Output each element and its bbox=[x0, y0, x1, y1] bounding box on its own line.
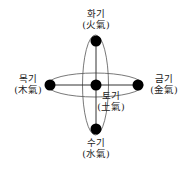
wood-hanja: (木氣) bbox=[12, 84, 44, 95]
metal-label: 금기 (金氣) bbox=[148, 73, 180, 95]
earth-korean: 토기 bbox=[95, 90, 127, 101]
fire-node-dot bbox=[91, 36, 102, 47]
fire-label: 화기 (火氣) bbox=[80, 8, 112, 30]
earth-hanja: (土氣) bbox=[95, 101, 127, 112]
water-node-dot bbox=[91, 124, 102, 135]
earth-label: 토기 (土氣) bbox=[95, 90, 127, 112]
fire-hanja: (火氣) bbox=[80, 19, 112, 30]
wood-label: 목기 (木氣) bbox=[12, 73, 44, 95]
earth-node-dot bbox=[91, 80, 102, 91]
water-hanja: (水氣) bbox=[80, 148, 112, 159]
water-korean: 수기 bbox=[80, 137, 112, 148]
metal-node-dot bbox=[133, 80, 144, 91]
wood-korean: 목기 bbox=[12, 73, 44, 84]
metal-korean: 금기 bbox=[148, 73, 180, 84]
wood-node-dot bbox=[45, 80, 56, 91]
metal-hanja: (金氣) bbox=[148, 84, 180, 95]
water-label: 수기 (水氣) bbox=[80, 137, 112, 159]
fire-korean: 화기 bbox=[80, 8, 112, 19]
